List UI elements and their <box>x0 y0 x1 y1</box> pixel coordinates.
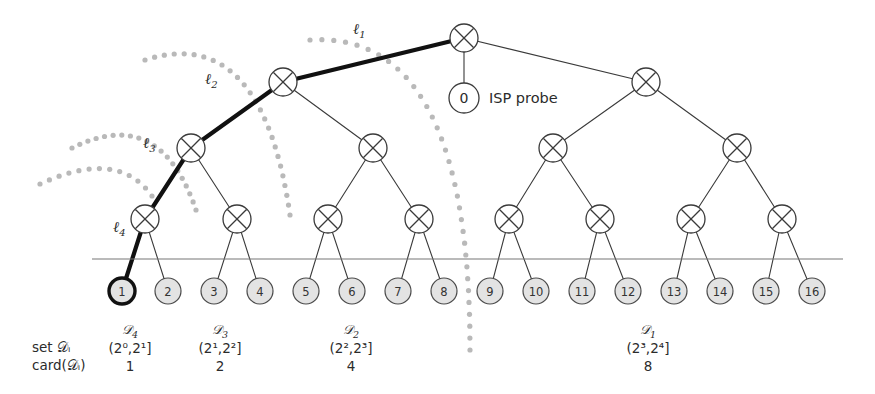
leaf-label-10: 10 <box>529 285 544 299</box>
arc-l3-boundary-dot <box>57 174 62 179</box>
arc-l2-boundary-dot <box>180 176 185 181</box>
arc-l3-boundary-dot <box>127 173 132 178</box>
edge-highlighted-3 <box>191 82 283 148</box>
arc-root-boundary-dot <box>418 94 423 99</box>
arc-root-boundary-dot <box>319 37 324 42</box>
leaf-label-8: 8 <box>440 285 447 299</box>
leaf-label-14: 14 <box>713 285 728 299</box>
arc-root-boundary-dot <box>404 75 409 80</box>
arc-root-boundary-dot <box>446 159 451 164</box>
arc-l3-boundary-dot <box>143 185 148 190</box>
arc-l1-boundary-dot <box>152 55 157 60</box>
arc-root-boundary-dot <box>462 241 467 246</box>
arc-root-boundary-dot <box>411 84 416 89</box>
arc-root-boundary-dot <box>467 312 472 317</box>
arc-l2-boundary-dot <box>187 191 192 196</box>
leaf-label-3: 3 <box>210 285 217 299</box>
figure-canvas: 0ISP probe12345678910111213141516ℓ1ℓ2ℓ3ℓ… <box>0 0 875 394</box>
arc-root-boundary-dot <box>343 40 348 45</box>
arc-l1-boundary-dot <box>287 212 292 217</box>
dotted-arc-layer <box>37 37 472 353</box>
arc-root-boundary-dot <box>366 47 371 52</box>
arc-l1-boundary-dot <box>266 126 271 131</box>
arc-root-boundary-dot <box>439 136 444 141</box>
group-D4-symbol: 𝒟4 <box>122 322 138 340</box>
arc-l2-boundary-dot <box>69 145 74 150</box>
row-label-layer: set 𝒟ᵢcard(𝒟ᵢ) <box>32 339 86 373</box>
tree-diagram: 0ISP probe12345678910111213141516ℓ1ℓ2ℓ3ℓ… <box>0 0 875 394</box>
arc-l2-boundary-dot <box>136 136 141 141</box>
level-label-l4: ℓ4 <box>113 218 126 238</box>
arc-l2-boundary-dot <box>159 149 164 154</box>
group-D1-interval: (2³,2⁴] <box>627 340 670 356</box>
arc-root-boundary-dot <box>467 336 472 341</box>
arc-l2-boundary-dot <box>184 183 189 188</box>
arc-root-boundary-dot <box>386 59 391 64</box>
level-label-l3: ℓ3 <box>143 134 156 154</box>
arc-l1-boundary-dot <box>262 116 267 121</box>
leaf-label-7: 7 <box>394 285 401 299</box>
group-D1-cardinality: 8 <box>644 358 653 374</box>
isp-probe-value: 0 <box>460 90 469 106</box>
row-label-set: set 𝒟ᵢ <box>32 339 70 355</box>
arc-l2-boundary-dot <box>111 133 116 138</box>
group-D2-symbol: 𝒟2 <box>343 322 359 340</box>
arc-l2-boundary-dot <box>119 133 124 138</box>
arc-l1-boundary-dot <box>192 52 197 57</box>
group-D2-interval: (2²,2³] <box>330 340 373 356</box>
arc-l2-boundary-dot <box>77 142 82 147</box>
arc-l2-boundary-dot <box>102 134 107 139</box>
arc-l3-boundary-dot <box>66 171 71 176</box>
edge-1 <box>464 38 646 82</box>
group-D1-symbol: 𝒟1 <box>640 322 656 340</box>
arc-l3-boundary-dot <box>135 179 140 184</box>
arc-l1-boundary-dot <box>242 82 247 87</box>
leaf-label-13: 13 <box>667 285 682 299</box>
leaf-label-5: 5 <box>302 285 309 299</box>
arc-root-boundary-dot <box>457 205 462 210</box>
leaf-label-12: 12 <box>621 285 636 299</box>
leaf-label-2: 2 <box>164 285 171 299</box>
group-D3-cardinality: 2 <box>216 358 225 374</box>
arc-root-boundary-dot <box>435 125 440 130</box>
arc-root-boundary-dot <box>450 170 455 175</box>
arc-l3-boundary-dot <box>97 166 102 171</box>
arc-l1-boundary-dot <box>280 173 285 178</box>
arc-l1-boundary-dot <box>270 135 275 140</box>
edge-highlighted-0 <box>283 38 464 82</box>
arc-l2-boundary-dot <box>170 161 175 166</box>
level-label-l2: ℓ2 <box>205 70 218 90</box>
arc-l1-boundary-dot <box>248 90 253 95</box>
row-label-card: card(𝒟ᵢ) <box>32 357 86 373</box>
arc-root-boundary-dot <box>459 217 464 222</box>
arc-root-boundary-dot <box>465 276 470 281</box>
leaf-label-4: 4 <box>256 285 263 299</box>
arc-root-boundary-dot <box>467 347 472 352</box>
group-D3-interval: (2¹,2²] <box>199 340 242 356</box>
arc-l3-boundary-dot <box>37 181 42 186</box>
group-D4-cardinality: 1 <box>126 358 135 374</box>
arc-l1-boundary-dot <box>211 58 216 63</box>
arc-l1-boundary-dot <box>286 203 291 208</box>
arc-l1-boundary-dot <box>284 193 289 198</box>
leaf-label-9: 9 <box>486 285 493 299</box>
edge-4 <box>283 82 373 148</box>
arc-l2-boundary-dot <box>193 207 198 212</box>
arc-l3-boundary-dot <box>76 168 81 173</box>
arc-l3-boundary-dot <box>87 167 92 172</box>
arc-l1-boundary-dot <box>235 75 240 80</box>
isp-probe-label: ISP probe <box>489 90 558 106</box>
edge-5 <box>553 82 646 148</box>
arc-l1-boundary-dot <box>258 107 263 112</box>
arc-root-boundary-dot <box>331 38 336 43</box>
arc-l1-boundary-dot <box>228 68 233 73</box>
arc-l3-boundary-dot <box>47 177 52 182</box>
leaf-label-11: 11 <box>575 285 590 299</box>
arc-root-boundary-dot <box>464 264 469 269</box>
arc-root-boundary-dot <box>461 229 466 234</box>
arc-l1-boundary-dot <box>201 54 206 59</box>
arc-root-boundary-dot <box>467 324 472 329</box>
arc-l1-boundary-dot <box>182 51 187 56</box>
arc-l1-boundary-dot <box>219 62 224 67</box>
arc-root-boundary-dot <box>452 182 457 187</box>
